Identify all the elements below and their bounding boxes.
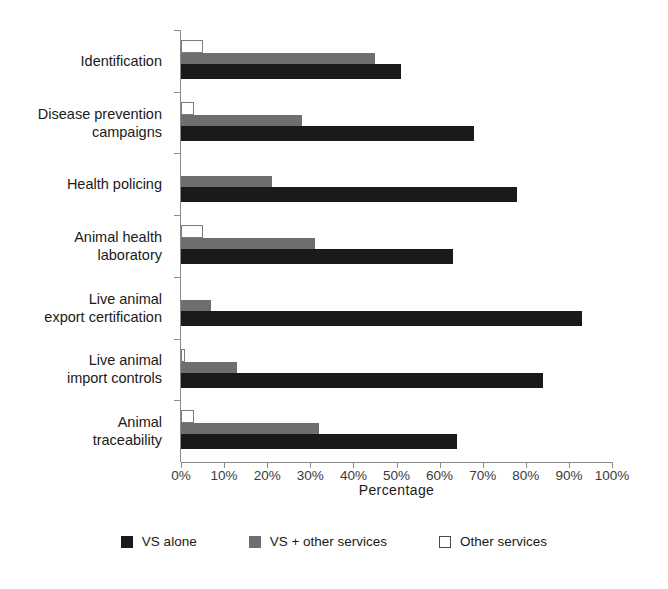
bar-vs-plus-other-services-animal-health-laboratory [181, 238, 315, 249]
bar-other-services-identification [181, 40, 203, 53]
bar-vs-alone-animal-traceability [181, 434, 457, 449]
category-tick [174, 92, 181, 93]
category-tick [174, 30, 181, 31]
bar-vs-alone-animal-health-laboratory [181, 249, 453, 264]
category-label-disease-prevention-campaigns: Disease prevention campaigns [0, 92, 172, 154]
category-label-animal-traceability: Animal traceability [0, 400, 172, 462]
category-tick [174, 400, 181, 401]
bar-group-live-animal-export-certification [181, 277, 612, 339]
legend-swatch-vsother-icon [249, 536, 261, 548]
bar-vs-alone-identification [181, 64, 401, 79]
bar-vs-plus-other-services-disease-prevention-campaigns [181, 115, 302, 126]
bar-vs-alone-live-animal-import-controls [181, 373, 543, 388]
bar-chart: Identification Disease prevention campai… [0, 0, 668, 589]
category-tick [174, 153, 181, 154]
x-tick-label-60: 60% [426, 468, 453, 483]
bar-group-animal-health-laboratory [181, 215, 612, 277]
x-tick-label-30: 30% [297, 468, 324, 483]
category-label-animal-health-laboratory: Animal health laboratory [0, 215, 172, 277]
x-tick-label-80: 80% [512, 468, 539, 483]
legend-item-vsalone[interactable]: VS alone [121, 534, 197, 549]
legend-label: Other services [460, 534, 547, 549]
bar-vs-plus-other-services-animal-traceability [181, 423, 319, 434]
legend-label: VS + other services [270, 534, 387, 549]
bar-vs-plus-other-services-health-policing [181, 176, 272, 187]
category-label-live-animal-import-controls: Live animal import controls [0, 339, 172, 401]
x-tick-label-100: 100% [595, 468, 630, 483]
legend-label: VS alone [142, 534, 197, 549]
category-tick [174, 277, 181, 278]
x-tick-label-70: 70% [469, 468, 496, 483]
legend: VS aloneVS + other servicesOther service… [0, 534, 668, 549]
bar-other-services-live-animal-import-controls [181, 349, 185, 362]
bar-other-services-animal-health-laboratory [181, 225, 203, 238]
x-tick-label-20: 20% [254, 468, 281, 483]
category-label-identification: Identification [0, 30, 172, 92]
category-label-health-policing: Health policing [0, 153, 172, 215]
x-tick-label-90: 90% [555, 468, 582, 483]
category-label-live-animal-export-certification: Live animal export certification [0, 277, 172, 339]
bar-vs-plus-other-services-live-animal-export-certification [181, 300, 211, 311]
x-axis-title: Percentage [181, 482, 612, 498]
x-tick-label-40: 40% [340, 468, 367, 483]
bar-other-services-disease-prevention-campaigns [181, 102, 194, 115]
legend-swatch-vsalone-icon [121, 536, 133, 548]
bar-group-health-policing [181, 153, 612, 215]
bar-vs-alone-disease-prevention-campaigns [181, 126, 474, 141]
category-axis-labels: Identification Disease prevention campai… [0, 30, 172, 462]
x-tick-label-10: 10% [211, 468, 238, 483]
bar-group-identification [181, 30, 612, 92]
bar-vs-alone-live-animal-export-certification [181, 311, 582, 326]
bar-group-live-animal-import-controls [181, 339, 612, 401]
plot-area [181, 30, 612, 462]
bar-other-services-animal-traceability [181, 410, 194, 423]
category-tick [174, 215, 181, 216]
x-tick-label-0: 0% [171, 468, 191, 483]
legend-item-other[interactable]: Other services [439, 534, 547, 549]
bar-vs-plus-other-services-live-animal-import-controls [181, 362, 237, 373]
x-tick-label-50: 50% [383, 468, 410, 483]
bar-group-disease-prevention-campaigns [181, 92, 612, 154]
legend-swatch-other-icon [439, 536, 451, 548]
bar-vs-plus-other-services-identification [181, 53, 375, 64]
bar-group-animal-traceability [181, 400, 612, 462]
legend-item-vsother[interactable]: VS + other services [249, 534, 387, 549]
bar-vs-alone-health-policing [181, 187, 517, 202]
category-tick [174, 339, 181, 340]
